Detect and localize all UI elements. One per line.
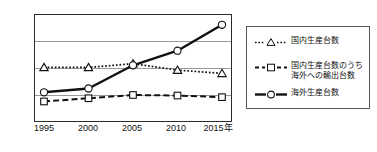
- dashed-square-symbol-icon: [254, 62, 288, 73]
- x-tick-2010: 2010: [154, 124, 198, 133]
- chart-legend: 国内生産台数 国内生産台数のうち 海外への輸出台数 海外生産台数: [246, 26, 370, 109]
- legend-item-exports-from-domestic: 国内生産台数のうち 海外への輸出台数: [254, 61, 363, 81]
- data-point-marker: [218, 69, 226, 76]
- legend-label-exports-from-domestic: 国内生産台数のうち 海外への輸出台数: [291, 61, 363, 81]
- data-point-marker: [219, 94, 226, 101]
- data-point-marker: [218, 21, 225, 28]
- dotted-triangle-symbol-icon: [254, 37, 288, 48]
- data-point-marker: [40, 89, 47, 96]
- x-tick-2005: 2005: [110, 124, 154, 133]
- series-plot: [34, 14, 232, 122]
- legend-label-domestic-production: 国内生産台数: [291, 36, 339, 46]
- data-point-marker: [85, 85, 92, 92]
- data-point-marker: [174, 92, 181, 99]
- legend-item-overseas-production: 海外生産台数: [254, 88, 339, 100]
- legend-label-overseas-production: 海外生産台数: [291, 88, 339, 98]
- x-tick-2000: 2000: [66, 124, 110, 133]
- chart-figure: 万台 2000 1500 1000 500 0 1995 2000 2005 2…: [0, 0, 377, 152]
- data-point-marker: [85, 95, 92, 102]
- legend-item-domestic-production: 国内生産台数: [254, 36, 339, 48]
- chart-area: 万台 2000 1500 1000 500 0 1995 2000 2005 2…: [0, 0, 240, 152]
- data-point-marker: [41, 98, 48, 105]
- data-point-marker: [129, 62, 136, 69]
- data-point-marker: [40, 63, 48, 70]
- data-point-marker: [174, 47, 181, 54]
- data-point-marker: [130, 92, 137, 99]
- solid-circle-symbol-icon: [254, 89, 288, 100]
- x-tick-1995: 1995: [22, 124, 66, 133]
- x-tick-2015: 2015年: [196, 124, 240, 133]
